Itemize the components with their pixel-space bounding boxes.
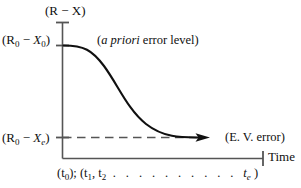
y-axis-label-text: (R − X) — [45, 3, 86, 18]
y-tick-label-initial: (R0 − X0) — [2, 33, 50, 49]
apriori-rest-text: error level) — [140, 33, 199, 47]
figure-canvas — [0, 0, 301, 188]
initial-minus: − — [20, 32, 34, 47]
t-comma: , t — [92, 166, 102, 180]
t-open: (t — [57, 166, 65, 180]
error-decay-figure: (R − X) (R0 − X0) (a priori error level)… — [0, 0, 301, 188]
y-axis-label: (R − X) — [45, 4, 86, 17]
apriori-italic-text: a priori — [101, 33, 140, 47]
x-axis-label-text: Time — [268, 149, 295, 164]
annotation-ev-error: (E. V. error) — [225, 131, 285, 144]
final-open: (R — [2, 130, 15, 145]
annotation-apriori-error-level: (a priori error level) — [97, 34, 199, 47]
y-tick-label-final: (R0 − Xe) — [2, 131, 50, 147]
x-axis-time-series-label: (t0); (t1, t2 . . . . . . . . . . te ) — [57, 167, 258, 182]
x-axis-label: Time — [268, 150, 295, 163]
t-separator: ); (t — [69, 166, 87, 180]
t-ellipsis-dots: . . . . . . . . . . — [106, 166, 243, 180]
final-close: ) — [45, 130, 49, 145]
error-decay-curve — [64, 46, 199, 138]
t-close: ) — [251, 166, 258, 180]
final-minus: − — [20, 130, 34, 145]
ev-error-text: (E. V. error) — [225, 130, 285, 144]
initial-open: (R — [2, 32, 15, 47]
initial-close: ) — [46, 32, 50, 47]
